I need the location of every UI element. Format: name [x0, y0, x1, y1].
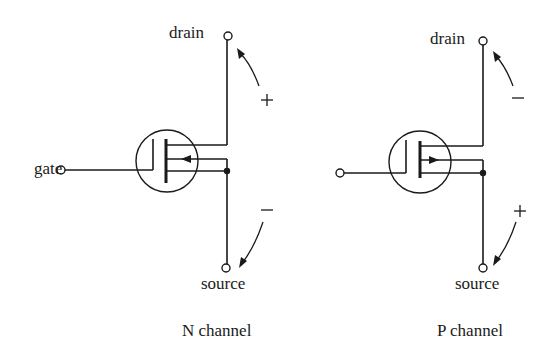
n-junction-dot — [224, 168, 230, 174]
p-drain-label: drain — [430, 30, 465, 47]
p-source-label: source — [455, 275, 499, 292]
p-gate-terminal — [336, 169, 344, 177]
p-source-plus-icon — [514, 205, 526, 217]
n-substrate-arrow-icon — [181, 155, 191, 163]
n-channel-mosfet — [57, 32, 273, 272]
mosfet-diagram — [0, 0, 551, 360]
n-source-terminal — [222, 264, 230, 272]
n-source-voltage-arrow — [243, 222, 263, 262]
n-channel-caption: N channel — [182, 322, 251, 339]
p-source-terminal — [479, 264, 487, 272]
p-channel-mosfet — [336, 37, 526, 272]
n-drain-plus-icon — [261, 94, 273, 106]
p-source-voltage-arrow — [497, 222, 516, 260]
p-junction-dot — [480, 170, 486, 176]
p-channel-caption: P channel — [437, 322, 503, 339]
n-source-label: source — [201, 275, 245, 292]
p-substrate-arrow-icon — [429, 156, 439, 164]
p-drain-voltage-arrow — [496, 56, 513, 86]
n-drain-terminal — [224, 32, 232, 40]
n-drain-label: drain — [169, 24, 204, 41]
p-drain-terminal — [479, 37, 487, 45]
n-gate-label: gate — [34, 160, 62, 177]
n-drain-voltage-arrow — [240, 53, 259, 86]
